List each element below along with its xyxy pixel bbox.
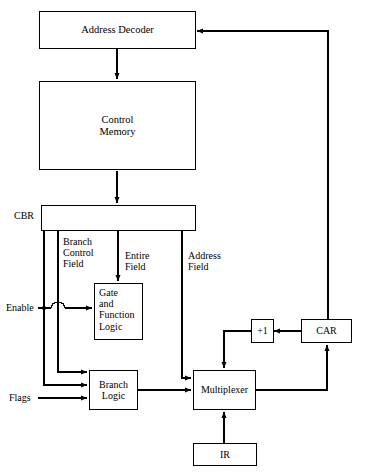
flags-label: Flags <box>9 392 31 403</box>
multiplexer-label: Multiplexer <box>201 384 248 395</box>
control-memory-label: Control Memory <box>99 114 135 138</box>
box-address-decoder[interactable]: Address Decoder <box>39 11 196 49</box>
address-field-label: Address Field <box>188 250 221 272</box>
box-multiplexer[interactable]: Multiplexer <box>193 370 256 410</box>
branch-control-field-label: Branch Control Field <box>63 236 94 270</box>
enable-junction-dot <box>42 306 46 310</box>
address-decoder-label: Address Decoder <box>81 24 154 36</box>
ir-label: IR <box>220 449 230 460</box>
incrementer-label: +1 <box>257 325 268 336</box>
microprogrammed-control-unit-diagram: Address Decoder Control Memory Gate and … <box>0 0 366 474</box>
line-enable-wire-hop <box>51 302 65 308</box>
box-ir[interactable]: IR <box>193 443 257 466</box>
box-incrementer[interactable]: +1 <box>251 319 274 343</box>
cbr-label: CBR <box>14 210 34 221</box>
line-car-to-address-decoder <box>197 31 328 319</box>
entire-field-label: Entire Field <box>125 250 149 272</box>
box-cbr-register[interactable] <box>41 205 196 231</box>
branch-logic-label: Branch Logic <box>99 379 128 401</box>
gate-and-function-logic-label: Gate and Function Logic <box>99 287 135 332</box>
box-gate-and-function-logic[interactable]: Gate and Function Logic <box>94 283 143 340</box>
connector-lines-layer <box>0 0 366 474</box>
box-control-memory[interactable]: Control Memory <box>39 81 196 170</box>
car-label: CAR <box>316 325 337 336</box>
enable-label: Enable <box>6 302 34 313</box>
line-incrementer-to-multiplexer <box>224 331 251 368</box>
line-multiplexer-to-car <box>256 345 327 390</box>
box-branch-logic[interactable]: Branch Logic <box>89 370 138 410</box>
box-car[interactable]: CAR <box>301 319 352 343</box>
